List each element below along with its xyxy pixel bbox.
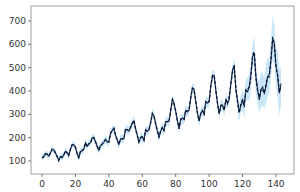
y-axis-ticks: 100200300400500600700 [9,16,31,166]
y-tick-label: 100 [9,156,26,166]
x-tick-label: 20 [70,179,82,189]
y-tick-label: 700 [9,16,26,26]
x-tick-label: 0 [39,179,45,189]
x-tick-label: 100 [201,179,218,189]
y-tick-label: 600 [9,39,26,49]
x-tick-label: 80 [170,179,182,189]
x-axis-ticks: 020406080100120140 [39,174,285,189]
y-tick-label: 400 [9,86,26,96]
y-tick-label: 500 [9,63,26,73]
x-tick-label: 140 [267,179,284,189]
line-chart: 020406080100120140 100200300400500600700 [0,0,300,192]
x-tick-label: 120 [234,179,251,189]
x-tick-label: 60 [137,179,149,189]
x-tick-label: 40 [103,179,115,189]
y-tick-label: 200 [9,133,26,143]
y-tick-label: 300 [9,109,26,119]
